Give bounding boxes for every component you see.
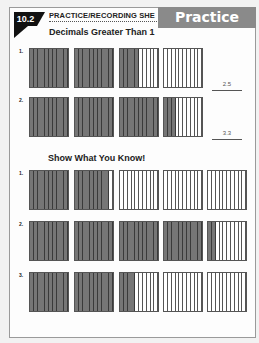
- hundredths-model-box: [74, 48, 114, 88]
- unshaded-tenth: [198, 171, 202, 209]
- shaded-tenth: [154, 98, 158, 136]
- unshaded-tenth: [154, 273, 158, 311]
- answer-value: 3.3: [212, 130, 242, 136]
- unshaded-tenth: [242, 222, 246, 260]
- hundredths-model-box: [29, 272, 69, 312]
- hundredths-model-box: [29, 48, 69, 88]
- hundredths-model-box: [119, 97, 159, 137]
- shaded-tenth: [109, 222, 113, 260]
- hundredths-model-box: [207, 170, 247, 210]
- unshaded-tenth: [198, 273, 202, 311]
- problem-number: 2.: [19, 221, 23, 227]
- hundredths-model-box: [74, 272, 114, 312]
- show-what-you-know-title: Show What You Know!: [48, 153, 145, 163]
- badge-triangle-decoration: [14, 26, 28, 38]
- shaded-tenth: [64, 273, 68, 311]
- shaded-tenth: [109, 98, 113, 136]
- answer-line: [212, 139, 242, 140]
- shaded-tenth: [64, 171, 68, 209]
- problem-number: 1.: [19, 170, 23, 176]
- hundredths-model-box: [207, 221, 247, 261]
- answer-value: 2.5: [212, 81, 242, 87]
- hundredths-model-box: [119, 170, 159, 210]
- section-title: Decimals Greater Than 1: [49, 27, 155, 37]
- hundredths-model-box: [119, 272, 159, 312]
- unshaded-tenth: [198, 98, 202, 136]
- badge-tail-decoration: [37, 12, 45, 26]
- hundredths-model-box: [163, 272, 203, 312]
- hundredths-model-box: [163, 170, 203, 210]
- hundredths-model-box: [29, 97, 69, 137]
- unshaded-tenth: [242, 273, 246, 311]
- hundredths-model-box: [119, 48, 159, 88]
- hundredths-model-box: [74, 170, 114, 210]
- shaded-tenth: [64, 98, 68, 136]
- lesson-badge: 10.2: [14, 12, 37, 26]
- problem-number: 2.: [19, 97, 23, 103]
- unshaded-tenth: [242, 171, 246, 209]
- hundredths-model-box: [163, 221, 203, 261]
- unshaded-tenth: [154, 171, 158, 209]
- answer-line: [212, 90, 242, 91]
- hundredths-model-box: [207, 272, 247, 312]
- hundredths-model-box: [29, 221, 69, 261]
- unshaded-tenth: [198, 49, 202, 87]
- shaded-tenth: [64, 49, 68, 87]
- shaded-tenth: [109, 49, 113, 87]
- shaded-tenth: [109, 273, 113, 311]
- shaded-tenth: [198, 222, 202, 260]
- unshaded-tenth: [109, 171, 113, 209]
- practice-banner: Practice: [158, 7, 256, 28]
- hundredths-model-box: [29, 170, 69, 210]
- title-dotted-rule: [49, 21, 159, 22]
- shaded-tenth: [64, 222, 68, 260]
- hundredths-model-box: [163, 48, 203, 88]
- shaded-tenth: [154, 222, 158, 260]
- hundredths-model-box: [74, 97, 114, 137]
- hundredths-model-box: [74, 221, 114, 261]
- problem-number: 1.: [19, 48, 23, 54]
- hundredths-model-box: [119, 221, 159, 261]
- unshaded-tenth: [154, 49, 158, 87]
- hundredths-model-box: [163, 97, 203, 137]
- sheet-title: PRACTICE/RECORDING SHE: [49, 11, 155, 20]
- problem-number: 3.: [19, 272, 23, 278]
